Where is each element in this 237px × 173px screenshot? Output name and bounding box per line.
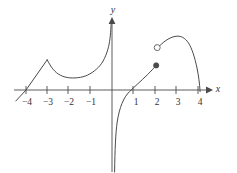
x-axis-label: x xyxy=(215,83,221,94)
x-axis-arrowhead xyxy=(206,87,213,94)
coordinate-plane-svg: −4 −3 −2 −1 1 2 3 4 x y xyxy=(0,0,237,173)
y-axis-arrowhead xyxy=(109,17,116,24)
curve-left-linear-branch xyxy=(16,60,47,101)
graph-figure: −4 −3 −2 −1 1 2 3 4 x y xyxy=(0,0,237,173)
tick-label-pos-3: 3 xyxy=(176,97,181,107)
open-circle-endpoint xyxy=(154,45,160,51)
curve-right-lower-branch xyxy=(115,66,156,172)
y-axis-label: y xyxy=(110,4,116,15)
axes-group xyxy=(14,17,213,172)
curve-right-upper-arc xyxy=(160,36,201,91)
curve-left-asymptotic-branch xyxy=(47,22,111,78)
tick-label-pos-1: 1 xyxy=(134,97,139,107)
tick-label-neg-1: −1 xyxy=(86,97,96,107)
tick-label-pos-2: 2 xyxy=(155,97,160,107)
tick-label-neg-4: −4 xyxy=(22,97,32,107)
tick-label-neg-2: −2 xyxy=(64,97,74,107)
tick-label-pos-4: 4 xyxy=(198,97,203,107)
filled-dot-endpoint xyxy=(154,63,159,68)
tick-label-neg-3: −3 xyxy=(43,97,53,107)
